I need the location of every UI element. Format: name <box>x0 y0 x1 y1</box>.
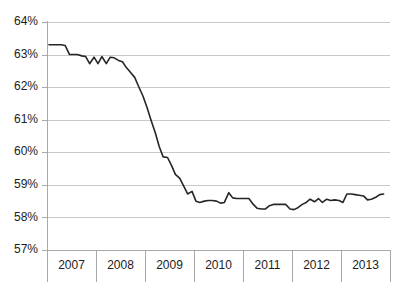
y-axis-tick-label: 60% <box>14 144 38 158</box>
y-axis-tick-label: 59% <box>14 177 38 191</box>
x-axis-tick-label: 2008 <box>107 258 134 272</box>
gridlines-group <box>47 23 390 251</box>
x-axis-tick-label: 2013 <box>352 258 379 272</box>
x-axis-labels: 2007200820092010201120122013 <box>58 258 379 272</box>
data-line <box>49 45 384 210</box>
data-series-group <box>49 45 384 210</box>
y-axis-tick-label: 57% <box>14 242 38 256</box>
x-axis-tick-label: 2012 <box>303 258 330 272</box>
y-axis-tick-marks <box>42 23 47 251</box>
y-axis-tick-label: 63% <box>14 47 38 61</box>
x-axis-tick-label: 2009 <box>156 258 183 272</box>
x-axis-tick-label: 2011 <box>255 258 281 272</box>
x-axis-tick-label: 2010 <box>205 258 232 272</box>
x-axis-tick-label: 2007 <box>58 258 85 272</box>
y-axis-tick-label: 62% <box>14 79 38 93</box>
y-axis-labels: 64%63%62%61%60%59%58%57% <box>14 14 38 256</box>
y-axis-tick-label: 61% <box>14 112 38 126</box>
y-axis-tick-label: 58% <box>14 210 38 224</box>
chart-container: 64%63%62%61%60%59%58%57% 200720082009201… <box>0 0 404 286</box>
y-axis-tick-label: 64% <box>14 14 38 28</box>
line-chart: 64%63%62%61%60%59%58%57% 200720082009201… <box>0 0 404 286</box>
